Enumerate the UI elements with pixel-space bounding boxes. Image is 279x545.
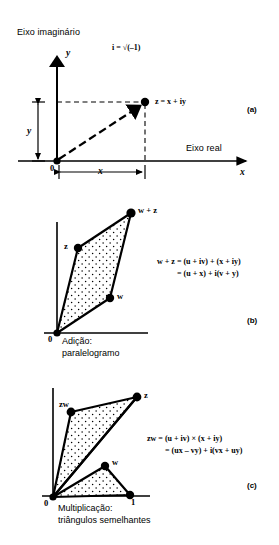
panel-b-label-w: w [117, 292, 123, 302]
panel-b-graphics [44, 208, 148, 336]
panel-b-point-w [106, 294, 114, 302]
multiplication-equation-line-2: = (ux – vy) + i(vx + uy) [165, 445, 242, 457]
panel-c-point-z [133, 393, 142, 402]
panel-tag-b: (b) [247, 316, 257, 325]
panel-a-origin-label: 0 [50, 164, 54, 174]
addition-parallelogram [57, 213, 131, 333]
panel-tag-a: (a) [247, 105, 257, 114]
x-measure-label: x [98, 166, 103, 177]
panel-c-caption-line-2: triângulos semelhantes [58, 515, 151, 527]
panel-a-point-z [141, 98, 149, 106]
y-measure-label: y [27, 126, 31, 137]
addition-equation-line-2: = (u + x) + i(v + y) [177, 268, 239, 280]
addition-equation-line-1: w + z = (u + iv) + (x + iy) [157, 256, 241, 268]
horizontal-axis-variable-a: x [240, 167, 245, 178]
panel-c-label-zw: zw [59, 400, 69, 410]
panel-b-label-w-plus-z: w + z [138, 206, 157, 216]
panel-a-origin-point [53, 157, 60, 164]
z-vector-arrow [59, 106, 140, 159]
panel-b-label-z: z [64, 242, 68, 252]
point-z-label-a: z = x + iy [155, 96, 186, 108]
complex-number-figure: Eixo imaginário y i = √(–1) z = x + iy y… [0, 0, 279, 545]
panel-c-label-unit: 1 [131, 498, 135, 508]
panel-c-point-w [101, 462, 109, 470]
panel-b-caption-line-2: paralelogramo [62, 348, 120, 360]
multiplication-equation-line-1: zw = (u + iv) × (x + iy) [147, 433, 222, 445]
panel-c-caption-line-1: Multiplicação: [58, 503, 113, 515]
vertical-axis-variable-a: y [66, 48, 70, 59]
panel-c-label-w: w [112, 458, 118, 468]
panel-b-caption-line-1: Adição: [62, 336, 92, 348]
panel-b-origin-label: 0 [48, 335, 52, 345]
panel-c-origin-point [49, 493, 56, 500]
imaginary-axis-label: Eixo imaginário [17, 27, 80, 37]
panel-b-point-w-plus-z [126, 208, 135, 217]
panel-c-label-z: z [144, 391, 148, 401]
panel-c-origin-label: 0 [44, 499, 48, 509]
imaginary-unit-annotation: i = √(–1) [112, 42, 141, 54]
panel-a-graphics [18, 57, 246, 179]
panel-tag-c: (c) [247, 481, 257, 490]
real-axis-label: Eixo real [186, 143, 222, 153]
panel-b-origin-point [53, 329, 60, 336]
panel-b-point-z [74, 244, 82, 252]
